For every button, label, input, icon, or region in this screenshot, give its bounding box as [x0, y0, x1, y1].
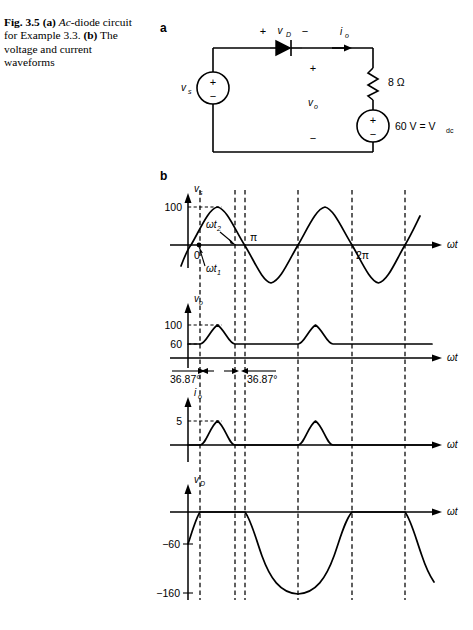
vo-y-axis-arrow	[185, 303, 192, 313]
dc-source-value-sub: dc	[446, 127, 454, 134]
vs-ytick-100: 100	[164, 201, 182, 213]
source-label-sub: s	[188, 88, 192, 95]
vs-x-axis-label: ωt	[447, 239, 459, 250]
vo-ytick-100: 100	[164, 319, 182, 331]
source-plus-sign: +	[210, 76, 216, 88]
chart-output-voltage: v o ωt 100 60 36.87° 36.87°	[164, 293, 458, 385]
io-axis-label: i	[194, 387, 197, 398]
vs-x-axis-arrow	[432, 242, 442, 249]
vd-ytick-minus60: −60	[162, 538, 180, 550]
wt2-annotation-sub: 2	[216, 225, 221, 232]
dc-source-value: 60 V = V	[395, 120, 436, 132]
output-minus-sign: −	[310, 132, 316, 144]
io-x-axis-label: ωt	[447, 439, 459, 450]
chart-output-current: i o ωt 5	[170, 387, 459, 462]
vo-axis-label-sub: o	[199, 299, 203, 306]
vd-x-axis-label: ωt	[447, 506, 459, 517]
panel-b-label: b	[160, 169, 167, 183]
chart-diode-voltage: v D ωt −60 −160	[156, 474, 458, 600]
current-label: i	[340, 26, 343, 37]
vs-axis-label-sub: s	[199, 189, 203, 196]
io-x-axis-arrow	[432, 442, 442, 449]
resistor-value: 8 Ω	[388, 76, 405, 88]
diode-triangle	[276, 41, 290, 55]
vs-xtick-pi: π	[250, 231, 257, 243]
vd-axis-label-sub: D	[200, 480, 205, 487]
vd-waveform	[188, 512, 434, 594]
wt1-annotation-sub: 1	[217, 269, 221, 276]
chart-source-voltage: v s ωt 100 0 π 2π ωt 2 ωt 1	[164, 183, 458, 283]
part-b-tag: (b)	[83, 29, 97, 41]
dim-label-right: 36.87°	[247, 373, 277, 385]
output-voltage-sub: o	[314, 103, 318, 110]
io-y-axis-arrow	[185, 397, 192, 407]
part-a-tag: (a)	[43, 16, 56, 28]
diode-voltage-sub: D	[286, 31, 291, 38]
dim-label-left: 36.87°	[170, 373, 200, 385]
source-minus-sign: −	[210, 90, 216, 102]
resistor-symbol	[368, 68, 378, 100]
dc-minus-sign: −	[370, 128, 376, 140]
source-label: v	[181, 82, 187, 93]
vs-xtick-0: 0	[194, 249, 200, 261]
vo-waveform	[188, 325, 432, 344]
figure-number: Fig. 3.5	[4, 16, 40, 28]
diode-voltage-label: v	[278, 25, 284, 36]
current-arrow-head	[344, 45, 352, 52]
dc-plus-sign: +	[370, 114, 376, 126]
panel-a-label: a	[160, 21, 167, 35]
vs-y-axis-arrow	[185, 193, 192, 203]
wt1-point-marker	[197, 243, 202, 248]
vd-ytick-minus160: −160	[156, 587, 180, 599]
current-label-sub: o	[345, 32, 349, 39]
vd-x-axis-arrow	[432, 509, 442, 516]
diode-plus-sign: +	[260, 25, 266, 37]
dim-arrow-mid1	[201, 368, 208, 374]
io-waveform	[188, 421, 432, 445]
vo-x-axis-arrow	[432, 355, 442, 362]
io-axis-label-sub: o	[198, 393, 202, 400]
output-plus-sign: +	[310, 62, 316, 74]
vo-ytick-60: 60	[170, 338, 182, 350]
vo-x-axis-label: ωt	[447, 352, 459, 363]
figure-graphic: a + − v s + v D − i o 8 Ω + − 60 V = V d…	[150, 0, 473, 630]
part-a-italic: Ac	[59, 16, 71, 28]
figure-caption: Fig. 3.5 (a) Ac-diode circuit for Exampl…	[4, 16, 136, 70]
alignment-dashed-lines	[200, 190, 405, 600]
vd-y-axis-arrow	[185, 484, 192, 494]
io-ytick-5: 5	[176, 415, 182, 427]
diode-minus-sign: −	[302, 25, 308, 37]
